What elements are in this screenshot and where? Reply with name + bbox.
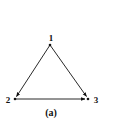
graph-diagram: 1 2 3 (a) — [0, 0, 123, 125]
edge-1-3 — [50, 45, 87, 97]
diagram-caption: (a) — [45, 107, 57, 119]
edge-1-2 — [17, 45, 51, 97]
node-3-dot — [87, 98, 90, 101]
node-2-dot — [14, 98, 17, 101]
node-2-label: 2 — [6, 95, 11, 105]
node-1-label: 1 — [49, 33, 54, 43]
node-3-label: 3 — [94, 95, 99, 105]
node-1-dot — [49, 44, 52, 47]
